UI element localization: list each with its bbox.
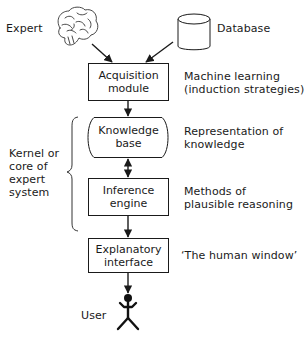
arrow-expert-to-acquisition: [92, 44, 112, 62]
acquisition-module-text: Acquisition module: [88, 69, 169, 95]
stick-figure-icon: [118, 294, 138, 329]
annotation-line: ‘The human window’: [181, 249, 297, 262]
arrow-database-to-acquisition: [146, 42, 173, 62]
kernel-brace: [67, 117, 78, 231]
knowledge-line1: Knowledge: [88, 124, 169, 137]
knowledge-annotation: Representation of knowledge: [184, 125, 283, 151]
inference-annotation: Methods of plausible reasoning: [184, 185, 293, 211]
annotation-line: Machine learning: [184, 70, 304, 83]
acquisition-line1: Acquisition: [88, 69, 169, 82]
explanatory-line1: Explanatory: [88, 243, 169, 256]
kernel-label-line: Kernel or: [9, 147, 59, 160]
explanatory-annotation: ‘The human window’: [181, 249, 297, 262]
explanatory-interface-text: Explanatory interface: [88, 243, 169, 269]
annotation-line: plausible reasoning: [184, 198, 293, 211]
annotation-line: Representation of: [184, 125, 283, 138]
acquisition-annotation: Machine learning (induction strategies): [184, 70, 304, 96]
database-cylinder-icon: [178, 14, 210, 50]
annotation-line: knowledge: [184, 138, 283, 151]
inference-line1: Inference: [88, 184, 169, 197]
expert-label: Expert: [6, 22, 43, 35]
kernel-label-line: core of: [9, 160, 59, 173]
kernel-label-line: system: [9, 186, 59, 199]
knowledge-base-text: Knowledge base: [88, 124, 169, 150]
inference-engine-text: Inference engine: [88, 184, 169, 210]
knowledge-line2: base: [88, 137, 169, 150]
kernel-label-line: expert: [9, 173, 59, 186]
acquisition-line2: module: [88, 82, 169, 95]
annotation-line: Methods of: [184, 185, 293, 198]
database-label: Database: [217, 22, 270, 35]
inference-line2: engine: [88, 197, 169, 210]
explanatory-line2: interface: [88, 256, 169, 269]
annotation-line: (induction strategies): [184, 83, 304, 96]
kernel-label: Kernel or core of expert system: [9, 147, 59, 199]
brain-icon: [58, 7, 98, 45]
user-label: User: [81, 309, 106, 322]
